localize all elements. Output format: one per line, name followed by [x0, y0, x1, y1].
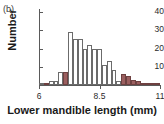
histogram-bar [102, 65, 107, 85]
x-axis-title: Lower mandible length (mm) [0, 104, 164, 116]
x-tick-11 [160, 85, 161, 89]
histogram-bar [73, 39, 78, 85]
histogram-bar [78, 39, 83, 85]
x-tick-label-8.5: 8.5 [85, 91, 115, 101]
histogram-bar [112, 70, 117, 85]
histogram-bar [63, 72, 68, 85]
y-tick-label-10: 10 [126, 61, 164, 71]
y-axis-line [39, 9, 40, 86]
x-tick-8.5 [100, 85, 101, 89]
histogram-bar [58, 72, 63, 85]
figure-panel-b: (b) Number 10203040 68.511 Lower mandibl… [0, 0, 164, 124]
histogram-bar [107, 61, 112, 85]
y-tick-label-30: 30 [126, 24, 164, 34]
y-tick-label-40: 40 [126, 6, 164, 16]
y-tick-10 [39, 67, 43, 68]
histogram-bar [92, 49, 97, 86]
y-tick-20 [39, 49, 43, 50]
x-tick-label-6: 6 [24, 91, 54, 101]
histogram-bar [126, 76, 131, 85]
histogram-bar [121, 74, 126, 85]
histogram-bar [68, 32, 73, 85]
x-tick-6 [39, 85, 40, 89]
histogram-bar [97, 49, 102, 86]
histogram-bar [87, 45, 92, 85]
y-tick-label-20: 20 [126, 43, 164, 53]
histogram-bar [83, 49, 88, 86]
x-tick-label-11: 11 [145, 91, 164, 101]
y-axis-title: Number [6, 2, 18, 58]
y-tick-30 [39, 30, 43, 31]
y-tick-40 [39, 12, 43, 13]
